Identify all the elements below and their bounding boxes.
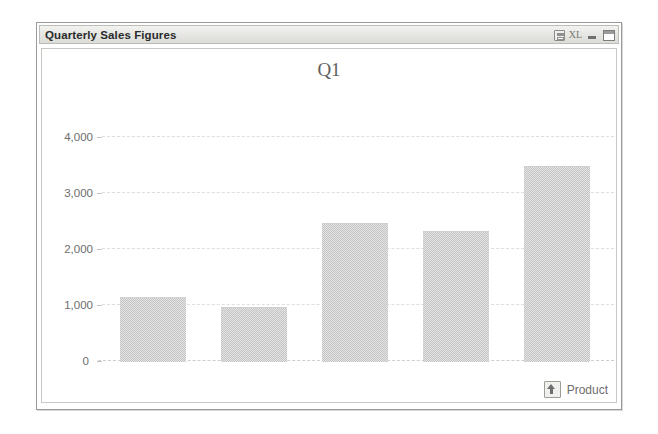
window-title-bar[interactable]: Quarterly Sales Figures XL [39, 25, 619, 44]
y-axis-label: 3,000 [64, 187, 93, 199]
bar-others[interactable] [524, 166, 590, 362]
x-axis-title-group: Product [544, 381, 608, 398]
bar-vegie-spread[interactable] [423, 231, 489, 362]
page-title: Quarterly Sales Figures [45, 29, 176, 41]
chart-window[interactable]: Quarterly Sales Figures XL Q1 4,000 3,00… [36, 22, 622, 410]
y-axis-label: 2,000 [64, 243, 93, 255]
export-icon[interactable] [554, 30, 565, 41]
y-axis-label: 0 [83, 355, 89, 367]
chart-plot-frame[interactable]: Q1 4,000 3,000 2,000 1,000 0 [41, 48, 617, 403]
chart-title: Q1 [42, 59, 616, 81]
gridline-4000: 4,000 [102, 136, 614, 138]
y-axis-label: 1,000 [64, 299, 93, 311]
x-axis-title: Product [567, 383, 608, 397]
bar-alice-mutton[interactable] [120, 297, 186, 362]
window-caption-buttons: XL [554, 28, 615, 41]
maximize-icon[interactable] [603, 30, 615, 41]
bar-raclette-courdavault[interactable] [322, 223, 388, 362]
minimize-icon[interactable] [586, 28, 599, 41]
y-axis-label: 4,000 [64, 131, 93, 143]
excel-icon[interactable]: XL [569, 28, 582, 41]
bar-gnocchi-di-nonna-alice[interactable] [221, 307, 287, 362]
plot-area[interactable]: 4,000 3,000 2,000 1,000 0 [102, 139, 614, 362]
arrow-up-icon[interactable] [544, 381, 561, 398]
